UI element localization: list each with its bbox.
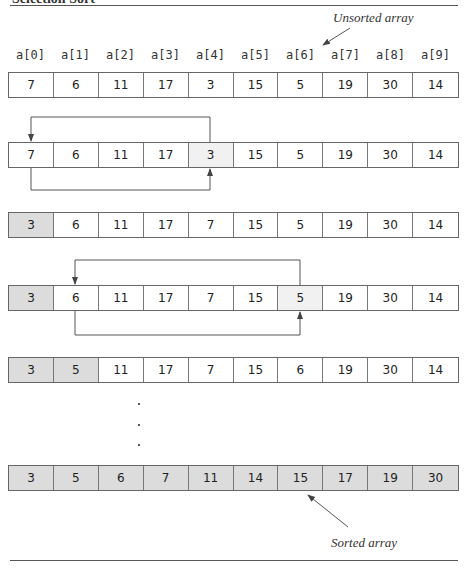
sorted-pointer-arrow xyxy=(308,495,348,527)
arrow-overlay xyxy=(0,0,472,571)
swap-arrow-bottom-2 xyxy=(75,311,300,335)
swap-arrow-top-2 xyxy=(75,260,300,285)
unsorted-pointer-arrow xyxy=(323,28,350,45)
swap-arrow-top-1 xyxy=(31,117,210,142)
swap-arrow-bottom-1 xyxy=(31,168,210,190)
